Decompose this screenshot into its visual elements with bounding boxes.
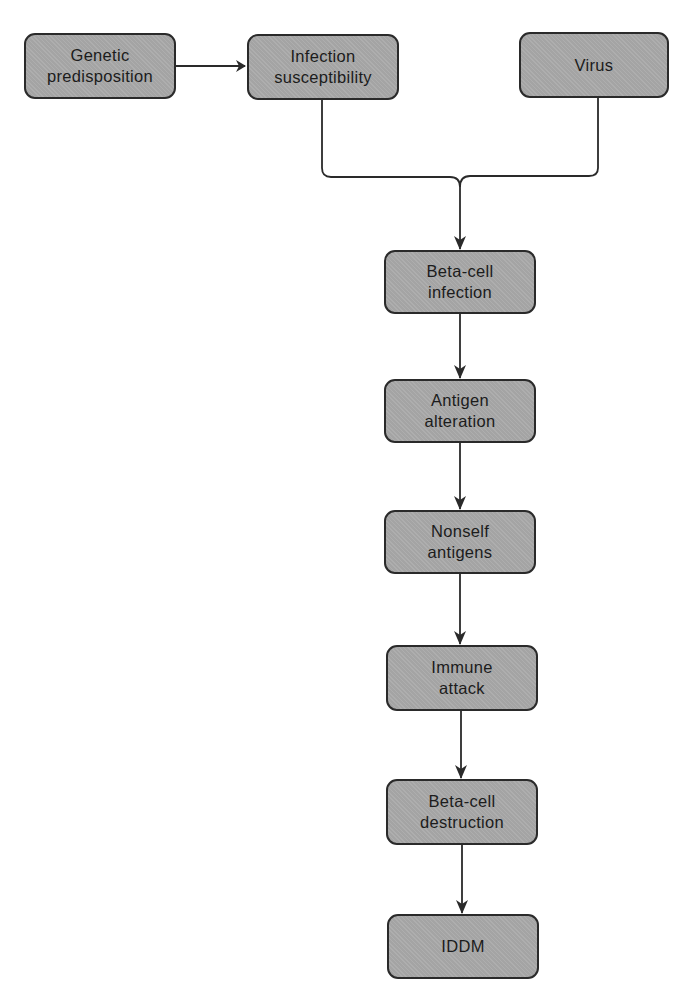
node-label: Infection susceptibility — [274, 46, 372, 88]
node-label: Antigen alteration — [425, 390, 496, 432]
node-genetic-predisposition: Genetic predisposition — [24, 33, 176, 99]
edge-susceptibility-to-merge — [322, 99, 460, 187]
node-infection-susceptibility: Infection susceptibility — [247, 34, 399, 100]
node-virus: Virus — [519, 32, 669, 98]
node-label: IDDM — [441, 936, 484, 957]
node-label: Beta-cell destruction — [420, 791, 504, 833]
node-label: Immune attack — [431, 657, 492, 699]
node-label: Virus — [575, 55, 614, 76]
node-label: Beta-cell infection — [427, 261, 494, 303]
edge-virus-to-merge — [460, 97, 598, 187]
node-immune-attack: Immune attack — [386, 645, 538, 711]
node-antigen-alteration: Antigen alteration — [384, 379, 536, 443]
node-beta-cell-destruction: Beta-cell destruction — [386, 779, 538, 845]
connector-layer — [0, 0, 697, 1006]
node-label: Nonself antigens — [428, 521, 493, 563]
node-beta-cell-infection: Beta-cell infection — [384, 250, 536, 314]
node-nonself-antigens: Nonself antigens — [384, 510, 536, 574]
node-iddm: IDDM — [387, 914, 539, 979]
node-label: Genetic predisposition — [47, 45, 153, 87]
